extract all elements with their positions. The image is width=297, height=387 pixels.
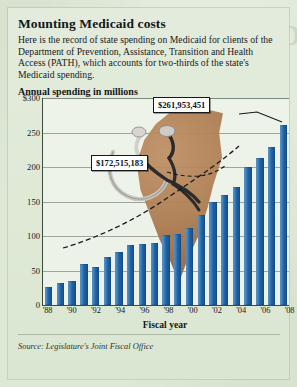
chart-x-axis-labels: '88'90'92'94'96'98'00'02'04'06'08 (42, 306, 288, 319)
x-axis-tick-label: '94 (115, 306, 125, 315)
x-axis-tick-label: '90 (67, 306, 77, 315)
bar (198, 215, 205, 305)
bar (280, 125, 287, 306)
bar (92, 267, 99, 305)
x-axis-tick-label: '02 (212, 306, 222, 315)
y-axis-tick-label: 150 (27, 197, 40, 207)
bar (268, 147, 275, 306)
bar (256, 158, 263, 305)
y-axis-tick-label: 200 (27, 162, 40, 172)
y-axis-tick-label: $300 (23, 93, 40, 103)
bar (57, 283, 64, 306)
chart-plot-area: 050100150200250$300 (18, 98, 280, 306)
source-note: Source: Legislature's Joint Fiscal Offic… (18, 342, 280, 351)
bar (209, 202, 216, 306)
chart-canvas: 050100150200250$300 (42, 98, 289, 306)
bar (45, 287, 52, 306)
x-axis-tick-label: '00 (188, 306, 198, 315)
bar (233, 187, 240, 306)
y-axis-tick-label: 0 (36, 300, 40, 310)
x-axis-tick-label: '08 (285, 306, 295, 315)
bar (127, 245, 134, 306)
divider (18, 334, 280, 335)
x-axis-tick-label: '06 (260, 306, 270, 315)
page-deck: Here is the record of state spending on … (18, 34, 280, 80)
bar (139, 244, 146, 305)
bar (104, 257, 111, 305)
bar (162, 235, 169, 305)
bar (80, 264, 87, 305)
chart-x-axis-title: Fiscal year (42, 319, 288, 330)
x-axis-tick-label: '92 (91, 306, 101, 315)
infographic-card: Mounting Medicaid costs Here is the reco… (8, 8, 289, 379)
y-axis-tick-label: 100 (27, 231, 40, 241)
bar (151, 243, 158, 305)
chart-subtitle: Annual spending in millions (18, 86, 280, 97)
bar (221, 195, 228, 305)
bar (115, 252, 122, 306)
bar (174, 234, 181, 305)
y-axis-tick-label: 50 (31, 266, 40, 276)
bar (244, 167, 251, 305)
x-axis-tick-label: '04 (236, 306, 246, 315)
bar (68, 281, 75, 306)
bar (186, 228, 193, 305)
x-axis-tick-label: '96 (139, 306, 149, 315)
x-axis-tick-label: '98 (164, 306, 174, 315)
chart-bars (45, 98, 287, 305)
x-axis-tick-label: '88 (43, 306, 53, 315)
page-title: Mounting Medicaid costs (18, 16, 280, 32)
y-axis-tick-label: 250 (27, 128, 40, 138)
